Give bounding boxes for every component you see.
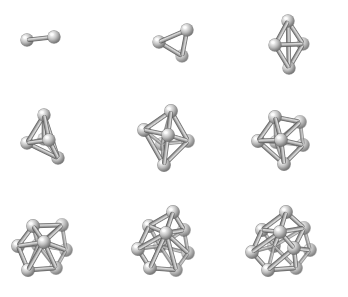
cluster-cell-7: N = 7 [232, 99, 348, 198]
cluster-n5 [0, 99, 116, 198]
atom-sphere [268, 38, 281, 51]
atom-sphere [37, 235, 51, 249]
cluster-n4 [232, 0, 348, 99]
cluster-cell-9: N = 9 [116, 198, 232, 297]
cluster-cell-3: N = 3 [116, 0, 232, 99]
cluster-cell-6: N = 6 [116, 99, 232, 198]
atom-sphere [161, 128, 175, 142]
cluster-cell-5: N = 5 [0, 99, 116, 198]
cluster-cell-2: N = 2 [0, 0, 116, 99]
cluster-cell-8: N = 8 [0, 198, 116, 297]
cluster-cell-4: N = 4 [232, 0, 348, 99]
cluster-n2 [0, 0, 116, 99]
atom-sphere [273, 225, 287, 239]
atom-sphere [42, 133, 55, 146]
cluster-n9 [116, 198, 232, 297]
atom-sphere [274, 133, 288, 147]
cluster-n10 [232, 198, 348, 297]
cluster-n7 [232, 99, 348, 198]
cluster-n8 [0, 198, 116, 297]
atom-sphere [159, 226, 173, 240]
cluster-figure-grid: N = 2N = 3N = 4N = 5N = 6N = 7N = 8N = 9… [0, 0, 348, 297]
cluster-n3 [116, 0, 232, 99]
atom-sphere [47, 30, 60, 43]
atom-sphere [180, 23, 193, 36]
cluster-cell-10: N = 10 [232, 198, 348, 297]
cluster-n6 [116, 99, 232, 198]
